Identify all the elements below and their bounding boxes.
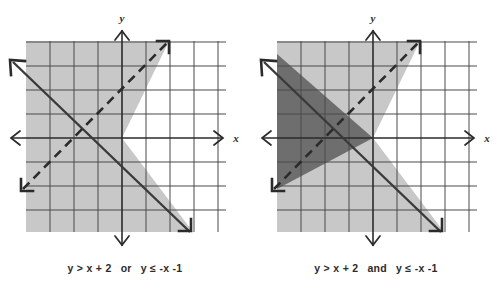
x-axis-label: x [232,132,239,144]
shaded-union-region-or [26,41,226,232]
caption-and-rhs: y ≤ -x -1 [396,262,438,274]
caption-or-rhs: y ≤ -x -1 [141,262,183,274]
coordinate-plane-or: y x [0,0,250,258]
caption-or-operator: or [112,262,141,274]
y-axis-label: y [118,12,125,24]
panel-and: y x y > x + 2andy ≤ -x -1 [251,0,501,295]
caption-and-lhs: y > x + 2 [314,262,358,274]
coordinate-plane-and: y x [251,0,501,258]
figure-root: y x y > x + 2ory ≤ -x -1 [0,0,501,295]
plot-area-and: y x [251,0,501,258]
caption-and-operator: and [358,262,396,274]
x-axis-label: x [483,132,490,144]
y-axis-label: y [369,12,376,24]
caption-or: y > x + 2ory ≤ -x -1 [0,262,250,274]
caption-or-lhs: y > x + 2 [68,262,112,274]
panel-or: y x y > x + 2ory ≤ -x -1 [0,0,250,295]
caption-and: y > x + 2andy ≤ -x -1 [251,262,501,274]
plot-area-or: y x [0,0,250,258]
